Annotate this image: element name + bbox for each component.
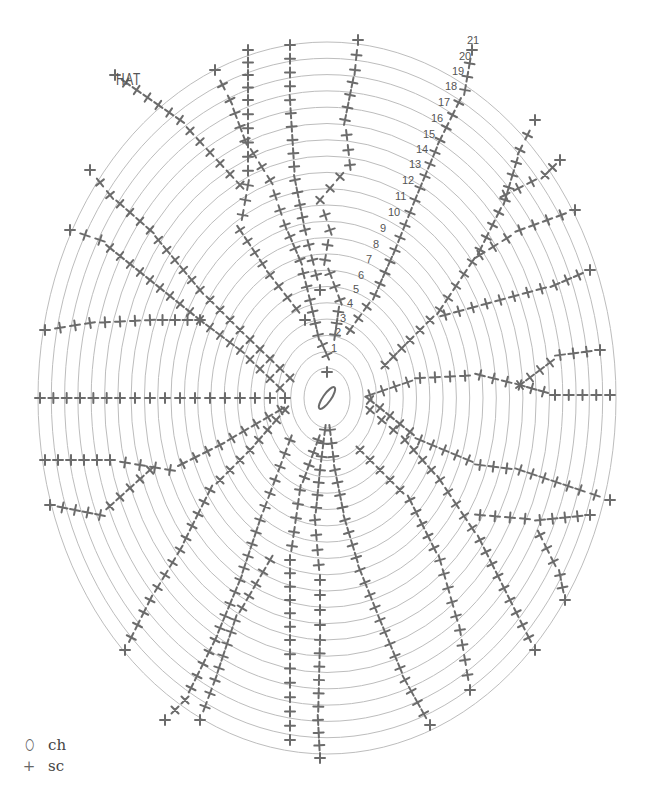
sc-stitch-icon xyxy=(285,68,295,78)
sc-stitch-icon xyxy=(102,393,112,403)
sc-stitch-icon xyxy=(314,662,324,672)
sc-stitch-icon xyxy=(426,316,433,323)
sc-stitch-icon xyxy=(226,316,233,323)
sc-stitch-icon xyxy=(419,456,427,464)
sc-stitch-icon xyxy=(515,225,524,234)
sc-stitch-icon xyxy=(343,145,353,155)
sc-stitch-icon xyxy=(488,221,497,230)
sc-stitch-icon xyxy=(406,336,413,343)
sc-stitch-icon xyxy=(285,232,294,241)
sc-stitch-icon xyxy=(488,462,498,472)
sc-stitch-icon xyxy=(511,158,521,168)
sc-stitch-icon xyxy=(573,511,583,521)
sc-stitch-icon xyxy=(265,489,274,498)
round-label: 3 xyxy=(340,312,346,324)
sc-stitch-icon xyxy=(135,460,145,470)
sc-stitch-icon xyxy=(136,268,144,276)
sc-stitch-icon xyxy=(275,205,284,214)
sc-stitch-icon xyxy=(410,446,418,454)
sc-stitch-icon xyxy=(370,603,379,612)
sc-stitch-icon xyxy=(401,436,409,444)
sc-stitch-icon xyxy=(370,290,379,299)
sc-stitch-icon xyxy=(549,557,558,566)
sc-stitch-icon xyxy=(313,545,323,555)
sc-stitch-icon xyxy=(366,456,373,463)
sc-stitch-icon xyxy=(313,702,323,712)
sc-stitch-icon xyxy=(502,463,512,473)
sc-stitch-icon xyxy=(314,688,324,698)
sc-stitch-icon xyxy=(356,446,363,453)
sc-stitch-icon xyxy=(194,510,203,519)
sc-stitch-icon xyxy=(161,571,170,580)
sc-stitch-icon xyxy=(285,622,295,632)
sc-stitch-icon xyxy=(245,592,254,601)
sc-stitch-icon xyxy=(310,515,320,525)
sc-stitch-icon xyxy=(315,620,325,630)
sc-stitch-icon xyxy=(176,300,184,308)
sc-stitch-icon xyxy=(311,530,321,540)
sc-stitch-icon xyxy=(355,565,364,574)
sc-stitch-icon xyxy=(236,326,243,333)
sc-stitch-icon xyxy=(308,307,318,317)
sc-stitch-icon xyxy=(555,570,565,580)
sc-stitch-icon xyxy=(243,95,253,105)
sc-stitch-icon xyxy=(171,706,178,713)
sc-stitch-icon xyxy=(439,445,448,454)
sc-stitch-icon xyxy=(235,393,245,403)
sc-stitch-icon xyxy=(143,93,151,101)
sc-stitch-icon xyxy=(578,390,588,400)
sc-stitch-icon xyxy=(163,246,171,254)
sc-stitch-icon xyxy=(300,473,309,482)
sc-stitch-icon xyxy=(196,138,203,145)
sc-stitch-icon xyxy=(348,78,358,88)
sc-stitch-icon xyxy=(181,696,188,703)
sc-stitch-icon xyxy=(292,305,300,313)
sc-stitch-icon xyxy=(542,544,551,553)
sc-stitch-icon xyxy=(285,706,295,716)
sc-stitch-icon xyxy=(582,347,592,357)
sc-stitch-icon xyxy=(88,393,98,403)
sc-stitch-icon xyxy=(300,225,310,235)
sc-stitch-icon xyxy=(323,240,333,250)
sc-stitch-icon xyxy=(550,390,560,400)
sc-stitch-icon xyxy=(398,345,405,352)
sc-stitch-icon xyxy=(238,604,247,613)
sc-stitch-icon xyxy=(314,675,324,685)
sc-stitch-icon xyxy=(216,476,223,483)
sc-stitch-icon xyxy=(425,159,434,168)
sc-stitch-icon xyxy=(285,608,295,618)
round-label: 17 xyxy=(438,96,450,108)
sc-stitch-icon xyxy=(315,575,325,585)
sc-stitch-icon xyxy=(246,356,253,363)
sc-stitch-icon xyxy=(344,528,354,538)
sc-stitch-icon xyxy=(574,270,583,279)
sc-stitch-icon xyxy=(316,196,324,204)
sc-stitch-icon xyxy=(120,458,130,468)
sc-stitch-icon xyxy=(314,478,324,488)
sc-stitch-icon xyxy=(285,40,295,50)
sc-stitch-icon xyxy=(285,721,295,731)
sc-stitch-icon xyxy=(351,553,361,563)
sc-stitch-icon xyxy=(430,544,439,553)
sc-stitch-icon xyxy=(270,475,279,484)
sc-stitch-icon xyxy=(330,465,340,475)
sc-stitch-icon xyxy=(80,230,89,239)
single-crochet-plus-icon: + xyxy=(20,756,38,777)
sc-stitch-icon xyxy=(205,689,214,698)
sc-stitch-icon xyxy=(390,382,399,391)
round-label: 7 xyxy=(366,253,372,265)
legend: ⬯ ch + sc xyxy=(20,735,66,777)
sc-stitch-icon xyxy=(568,348,578,358)
sc-stitch-icon xyxy=(243,551,252,560)
sc-stitch-icon xyxy=(455,625,465,635)
sc-stitch-icon xyxy=(287,122,297,132)
sc-stitch-icon xyxy=(378,386,387,395)
sc-stitch-icon xyxy=(165,108,173,116)
sc-stitch-icon xyxy=(395,233,404,242)
sc-stitch-icon xyxy=(475,460,485,470)
sc-stitch-icon xyxy=(555,350,565,360)
sc-stitch-icon xyxy=(284,294,292,302)
round-label: 5 xyxy=(353,283,359,295)
sc-stitch-icon xyxy=(365,590,374,599)
sc-stitch-icon xyxy=(256,365,263,372)
